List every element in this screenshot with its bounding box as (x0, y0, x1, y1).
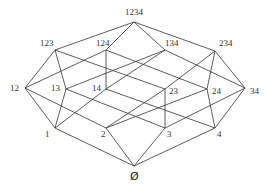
edge-1-empty (55, 128, 134, 166)
node-label-123: 123 (40, 38, 54, 48)
labels-group: 12341231241342341213142324341234Ø (10, 7, 260, 183)
node-label-1: 1 (45, 129, 50, 139)
node-label-1234: 1234 (125, 7, 144, 17)
node-label-4: 4 (217, 129, 222, 139)
node-label-24: 24 (212, 86, 222, 96)
edge-1234-134 (134, 22, 165, 50)
edge-1234-123 (55, 22, 134, 50)
node-label-234: 234 (219, 38, 233, 48)
node-label-12: 12 (10, 83, 19, 93)
edge-4-empty (134, 128, 215, 166)
edge-123-23 (55, 50, 165, 89)
node-label-34: 34 (250, 86, 260, 96)
node-label-empty: Ø (130, 170, 139, 183)
node-label-2: 2 (101, 129, 106, 139)
edge-234-24 (207, 51, 215, 89)
edge-234-34 (215, 51, 245, 88)
node-label-14: 14 (92, 83, 102, 93)
edge-12-1 (25, 88, 55, 128)
node-label-23: 23 (169, 86, 179, 96)
edge-134-34 (165, 50, 245, 88)
node-label-3: 3 (167, 129, 172, 139)
edge-14-4 (106, 89, 215, 128)
node-label-134: 134 (165, 38, 179, 48)
edge-12-2 (25, 88, 106, 128)
edge-2-empty (106, 128, 134, 166)
node-label-124: 124 (96, 38, 110, 48)
lattice-diagram: 12341231241342341213142324341234Ø (0, 0, 267, 189)
node-label-13: 13 (51, 83, 61, 93)
edge-1234-124 (106, 22, 134, 50)
edge-3-empty (134, 128, 165, 166)
edge-13-1 (55, 89, 66, 128)
